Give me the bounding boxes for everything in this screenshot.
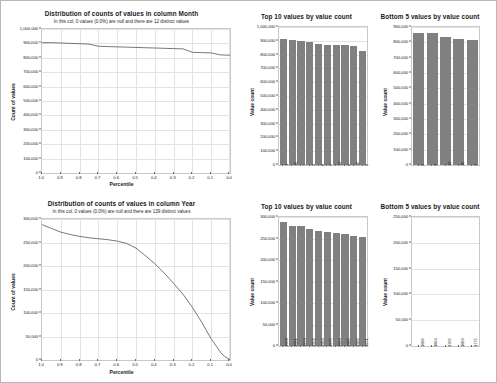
y-axis-tick: 400,000 — [260, 106, 275, 111]
y-axis-tick: 100,000 — [260, 300, 275, 305]
y-axis-tick: 700,000 — [23, 69, 38, 74]
x-axis-tickmark — [326, 164, 327, 166]
chart-grid: Distribution of counts of values in colu… — [4, 4, 493, 379]
y-axis-tickmark — [276, 39, 278, 40]
x-axis-tick: 0.8 — [71, 362, 87, 367]
y-axis-tick: 600,000 — [23, 83, 38, 88]
y-axis-tick: 300,000 — [393, 116, 408, 121]
x-axis-tickmark — [210, 359, 211, 361]
x-axis-tickmark — [191, 359, 192, 361]
plot-area-year-distribution — [41, 218, 231, 361]
bar — [341, 45, 348, 165]
panel-month-top10: Top 10 values by value count Value count… — [239, 4, 374, 194]
x-axis-tickmark — [135, 172, 136, 174]
x-axis-tick: 0.9 — [52, 175, 68, 180]
x-axis-tickmark — [362, 164, 363, 166]
y-axis-tickmark — [409, 87, 411, 88]
y-axis-tick: 250,000 — [260, 235, 275, 240]
y-axis-tickmark — [39, 157, 41, 158]
x-axis-tick: 1975 — [328, 338, 333, 347]
x-axis-tick: 1952 — [311, 338, 316, 347]
y-axis-tick: 900,000 — [23, 40, 38, 45]
x-axis-tick: 1964 — [337, 338, 342, 347]
y-axis-label: Value count — [382, 262, 388, 322]
y-axis-tickmark — [39, 218, 41, 219]
bar — [413, 33, 424, 165]
y-axis-tick: 1,000,000 — [257, 24, 275, 29]
y-axis-tickmark — [39, 71, 41, 72]
x-axis-tick: 1869 — [460, 338, 465, 347]
x-axis-tickmark — [418, 164, 419, 166]
x-axis-tickmark — [300, 345, 301, 347]
bar — [306, 229, 313, 346]
x-axis-tick: 0.0 — [221, 175, 237, 180]
y-axis-tickmark — [276, 136, 278, 137]
x-axis-tick: 12 — [447, 162, 452, 166]
y-axis-tick: 500,000 — [23, 98, 38, 103]
panel-title: Bottom 5 values by value count — [374, 203, 486, 210]
y-axis-tickmark — [39, 265, 41, 266]
y-axis-tick: 0 — [36, 170, 38, 175]
x-axis-tickmark — [335, 164, 336, 166]
x-axis-tickmark — [154, 359, 155, 361]
x-axis-tick: 10 — [293, 162, 298, 166]
x-axis-tickmark — [418, 345, 419, 347]
y-axis-label: Count of values — [10, 262, 16, 322]
bar — [289, 40, 296, 165]
y-axis-tick: 900,000 — [260, 37, 275, 42]
y-axis-tickmark — [276, 108, 278, 109]
panel-month-distribution: Distribution of counts of values in colu… — [4, 4, 239, 194]
x-axis-tick: 0.8 — [71, 175, 87, 180]
y-axis-tickmark — [276, 67, 278, 68]
y-axis-tick: 200,000 — [393, 131, 408, 136]
x-axis-tickmark — [318, 345, 319, 347]
y-axis-tickmark — [409, 148, 411, 149]
x-axis-tick: 1.0 — [33, 175, 49, 180]
x-axis-tick: 0.3 — [165, 175, 181, 180]
x-axis-tickmark — [300, 164, 301, 166]
x-axis-tick: 0.6 — [108, 362, 124, 367]
y-axis-tickmark — [276, 280, 278, 281]
y-axis-tickmark — [276, 81, 278, 82]
x-axis-tick: 1973 — [302, 338, 307, 347]
y-axis-tick: 250,000 — [23, 239, 38, 244]
x-axis-tick: 3 — [311, 164, 316, 166]
panel-title: Top 10 values by value count — [239, 203, 374, 210]
y-axis-tickmark — [276, 259, 278, 260]
y-axis-tickmark — [39, 288, 41, 289]
x-axis-tickmark — [228, 172, 229, 174]
x-axis-tickmark — [362, 345, 363, 347]
bar — [333, 233, 340, 346]
y-axis-tick: 0 — [406, 162, 408, 167]
x-axis-tickmark — [458, 345, 459, 347]
x-axis-label: Percentile — [4, 181, 239, 187]
x-axis-tickmark — [335, 345, 336, 347]
y-axis-tickmark — [276, 302, 278, 303]
y-axis-tickmark — [276, 323, 278, 324]
x-axis-tick: 0.2 — [183, 362, 199, 367]
x-axis-tickmark — [458, 164, 459, 166]
panel-title: Distribution of counts of values in colu… — [4, 200, 239, 207]
x-axis-tick: 1804 — [433, 338, 438, 347]
x-axis-tickmark — [116, 172, 117, 174]
x-axis-tickmark — [41, 359, 42, 361]
x-axis-tickmark — [173, 359, 174, 361]
gridline-horizontal — [412, 217, 479, 218]
y-axis-tick: 0 — [273, 343, 275, 348]
y-axis-tickmark — [409, 293, 411, 294]
y-axis-tick: 150,000 — [260, 278, 275, 283]
x-axis-label: Percentile — [4, 369, 239, 375]
x-axis-tickmark — [154, 172, 155, 174]
bar — [324, 232, 331, 346]
y-axis-tickmark — [39, 100, 41, 101]
panel-year-top10: Top 10 values by value count Value count… — [239, 194, 374, 381]
bar — [297, 41, 304, 165]
plot-area-month-top10 — [278, 26, 368, 166]
x-axis-tick: 0.7 — [89, 362, 105, 367]
y-axis-tick: 600,000 — [260, 79, 275, 84]
y-axis-tick: 1,000,000 — [20, 26, 38, 31]
x-axis-tick: 1 — [284, 164, 289, 166]
x-axis-tick: 8 — [320, 164, 325, 166]
y-axis-label: Value count — [249, 262, 255, 322]
series-line — [42, 29, 230, 173]
